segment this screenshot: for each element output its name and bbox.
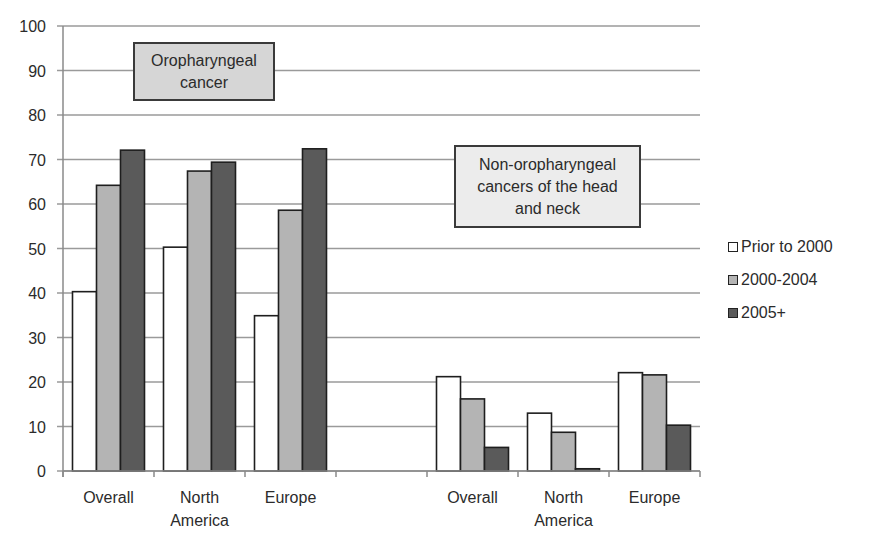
- bar: [461, 399, 485, 471]
- bar: [279, 210, 303, 471]
- y-tick-label: 100: [19, 18, 46, 35]
- y-tick-label: 10: [28, 419, 46, 436]
- legend-item-2000-2004: 2000-2004: [728, 269, 833, 291]
- bar: [528, 413, 552, 471]
- oropharyngeal-annotation-line2: cancer: [180, 72, 228, 94]
- non-oropharyngeal-annotation-box: Non-oropharyngeal cancers of the head an…: [454, 145, 641, 228]
- legend-item-prior-to-2000: Prior to 2000: [728, 236, 833, 258]
- y-tick-label: 80: [28, 107, 46, 124]
- x-tick-label: North: [544, 489, 583, 506]
- non-oropharyngeal-annotation-line2: cancers of the head: [477, 176, 618, 198]
- bar: [619, 373, 643, 471]
- y-tick-label: 20: [28, 374, 46, 391]
- bar: [121, 150, 145, 471]
- x-tick-label: Overall: [83, 489, 134, 506]
- bar: [303, 149, 327, 471]
- bar: [643, 375, 667, 471]
- legend-swatch-darkgray-icon: [728, 308, 738, 318]
- bar: [97, 185, 121, 471]
- y-tick-label: 0: [37, 463, 46, 480]
- legend-label: Prior to 2000: [741, 238, 833, 256]
- bar: [212, 162, 236, 471]
- non-oropharyngeal-annotation-line3: and neck: [515, 198, 580, 220]
- bar: [437, 377, 461, 471]
- bar: [255, 316, 279, 471]
- oropharyngeal-annotation-line1: Oropharyngeal: [151, 50, 257, 72]
- y-tick-label: 40: [28, 285, 46, 302]
- bar: [667, 425, 691, 471]
- bar: [73, 292, 97, 471]
- bar: [188, 171, 212, 471]
- x-tick-label: America: [534, 512, 593, 529]
- y-tick-label: 50: [28, 241, 46, 258]
- bar: [164, 247, 188, 471]
- y-tick-label: 90: [28, 63, 46, 80]
- x-tick-label: Overall: [447, 489, 498, 506]
- legend-item-2005-plus: 2005+: [728, 302, 833, 324]
- y-tick-label: 70: [28, 152, 46, 169]
- x-tick-label: Europe: [629, 489, 681, 506]
- legend-swatch-white-icon: [728, 242, 738, 252]
- x-tick-label: North: [180, 489, 219, 506]
- bar: [552, 432, 576, 471]
- non-oropharyngeal-annotation-line1: Non-oropharyngeal: [479, 154, 616, 176]
- bar-chart: 0102030405060708090100OverallNorthAmeric…: [0, 0, 870, 546]
- y-tick-label: 30: [28, 330, 46, 347]
- oropharyngeal-annotation-box: Oropharyngeal cancer: [133, 42, 275, 101]
- bar: [485, 447, 509, 471]
- chart-legend: Prior to 2000 2000-2004 2005+: [728, 236, 833, 335]
- x-tick-label: America: [170, 512, 229, 529]
- y-tick-label: 60: [28, 196, 46, 213]
- legend-label: 2000-2004: [741, 271, 818, 289]
- x-tick-label: Europe: [265, 489, 317, 506]
- legend-swatch-lightgray-icon: [728, 275, 738, 285]
- legend-label: 2005+: [741, 304, 786, 322]
